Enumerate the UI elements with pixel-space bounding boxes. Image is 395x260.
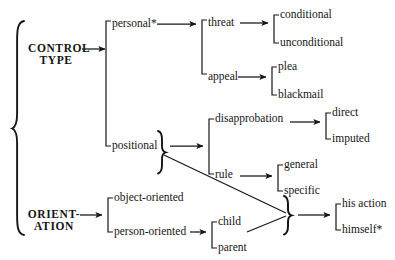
root-label-control-type: CONTROL TYPE	[28, 43, 84, 66]
bracket-merge-children	[336, 204, 341, 230]
node-blackmail: blackmail	[278, 89, 323, 101]
bracket-personal-children	[202, 20, 207, 74]
bracket-positional-children	[209, 119, 214, 174]
node-parent: parent	[218, 242, 247, 254]
node-disapprobation: disapprobation	[215, 113, 283, 125]
bracket-disapprobation-children	[326, 113, 331, 139]
positional-brace	[158, 131, 166, 174]
outer-grouping-brace	[12, 21, 24, 235]
node-conditional: conditional	[280, 9, 332, 21]
node-himself: himself*	[342, 224, 382, 236]
bracket-threat-children	[274, 15, 279, 43]
node-unconditional: unconditional	[280, 37, 343, 49]
node-specific: specific	[284, 185, 320, 197]
node-object-oriented: object-oriented	[114, 192, 184, 204]
node-plea: plea	[278, 61, 297, 73]
bracket-control-type-children	[106, 21, 111, 146]
node-child: child	[218, 216, 241, 228]
bracket-rule-children	[278, 165, 283, 191]
node-positional: positional	[112, 140, 157, 152]
node-threat: threat	[208, 17, 234, 29]
taxonomy-diagram: CONTROL TYPE ORIENT- ATION personal* pos…	[0, 0, 395, 260]
node-person-oriented: person-oriented	[114, 226, 186, 238]
node-appeal: appeal	[208, 71, 238, 83]
bracket-person-oriented-children	[212, 222, 217, 248]
bracket-appeal-children	[272, 67, 277, 95]
merge-brace	[284, 196, 292, 235]
node-imputed: imputed	[332, 133, 370, 145]
node-general: general	[284, 159, 318, 171]
node-his-action: his action	[342, 198, 386, 210]
bracket-orientation-children	[108, 198, 113, 232]
node-personal: personal*	[112, 18, 157, 30]
node-direct: direct	[332, 107, 358, 119]
root-label-orientation: ORIENT- ATION	[26, 209, 82, 232]
node-rule: rule	[215, 169, 233, 181]
